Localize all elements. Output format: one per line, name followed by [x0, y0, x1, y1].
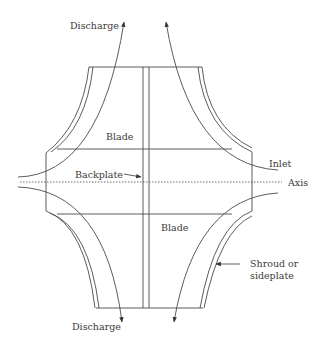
label-backplate: Backplate: [75, 169, 123, 180]
label-shroud-line2: sideplate: [250, 270, 294, 281]
flow-arrow-top-right: [166, 22, 278, 170]
label-blade-upper: Blade: [106, 131, 133, 142]
label-shroud-line1: Shroud or: [250, 258, 298, 269]
label-inlet: Inlet: [269, 158, 291, 169]
impeller-drawing: [0, 0, 321, 345]
label-blade-lower: Blade: [161, 222, 188, 233]
impeller-diagram: Discharge Discharge Blade Blade Backplat…: [0, 0, 321, 345]
label-discharge-bottom: Discharge: [72, 321, 121, 332]
label-discharge-top: Discharge: [70, 20, 119, 31]
flow-arrow-bottom-left: [18, 187, 122, 322]
flow-arrow-top-left: [18, 22, 124, 177]
label-axis: Axis: [288, 177, 308, 188]
